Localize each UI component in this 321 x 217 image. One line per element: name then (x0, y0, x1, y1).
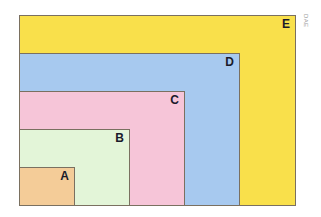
rect-label: E (282, 18, 290, 30)
rect-label: A (60, 170, 69, 182)
side-caption: DAE (303, 14, 309, 27)
rect-a: A (19, 167, 75, 206)
rect-label: B (115, 132, 124, 144)
rect-label: D (225, 56, 234, 68)
rect-label: C (170, 94, 179, 106)
